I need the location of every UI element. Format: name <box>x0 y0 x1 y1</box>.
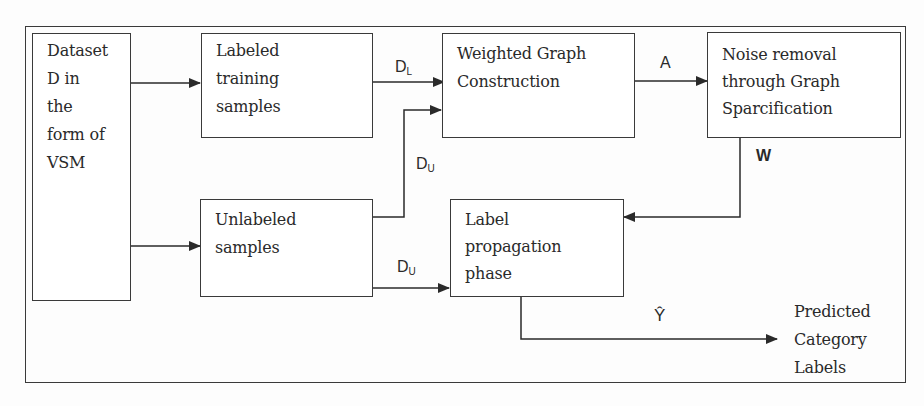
edge-label-du-lower: DU <box>397 258 416 277</box>
edge-label-dl-main: D <box>395 58 407 75</box>
node-weighted-graph-construction: Weighted Graph Construction <box>442 33 635 138</box>
node-labeled-training-samples: Labeled training samples <box>201 33 373 138</box>
edge-label-du-upper-main: D <box>416 155 428 172</box>
edge-label-du-lower-sub: U <box>409 266 416 277</box>
edge-label-a: A <box>660 54 671 72</box>
edge-label-du-lower-main: D <box>397 258 409 275</box>
node-label-propagation-phase: Label propagation phase <box>450 199 624 297</box>
edge-label-w: W <box>756 147 771 165</box>
node-noise-removal: Noise removal through Graph Sparcificati… <box>707 32 901 138</box>
edge-label-dl: DL <box>395 58 412 77</box>
node-predicted-category-labels: Predicted Category Labels <box>794 298 871 382</box>
edge-label-du-upper-sub: U <box>428 163 435 174</box>
node-dataset: Dataset D in the form of VSM <box>32 33 131 301</box>
edge-label-yhat: Ŷ <box>654 306 665 326</box>
edge-label-dl-sub: L <box>407 66 413 77</box>
node-unlabeled-samples: Unlabeled samples <box>200 199 373 297</box>
edge-label-du-upper: DU <box>416 155 435 174</box>
